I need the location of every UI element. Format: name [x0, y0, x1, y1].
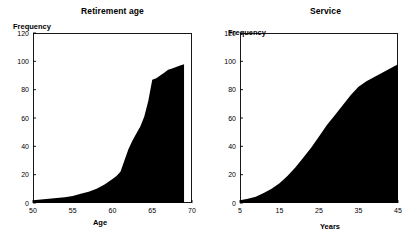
plot-area-service: 020406080100120515253545: [210, 0, 419, 245]
x-axis-tick-label: 45: [394, 207, 402, 214]
x-axis-tick-label: 60: [109, 207, 117, 214]
y-axis-tick-label: 100: [17, 58, 29, 65]
y-axis-tick-label: 20: [21, 171, 29, 178]
y-axis-tick-label: 20: [228, 171, 236, 178]
x-axis-tick-label: 65: [148, 207, 156, 214]
x-axis-tick-label: 5: [238, 207, 242, 214]
y-axis-tick-label: 120: [224, 30, 236, 37]
y-axis-tick-label: 0: [25, 200, 29, 207]
y-axis-tick-label: 120: [17, 30, 29, 37]
y-axis-tick-label: 80: [21, 86, 29, 93]
x-axis-tick-label: 15: [276, 207, 284, 214]
y-axis-tick-label: 60: [21, 115, 29, 122]
cumulative-frequency-area: [33, 64, 184, 203]
y-axis-tick-label: 100: [224, 58, 236, 65]
chart-panel-service: Service Frequency Years 0204060801001205…: [210, 0, 419, 245]
plot-area-retirement-age: 0204060801001205055606570: [0, 0, 209, 245]
ogive-chart-figure: Retirement age Frequency Age 02040608010…: [0, 0, 419, 245]
x-axis-tick-label: 70: [188, 207, 196, 214]
y-axis-tick-label: 40: [228, 143, 236, 150]
x-axis-tick-label: 55: [69, 207, 77, 214]
y-axis-tick-label: 40: [21, 143, 29, 150]
cumulative-frequency-area: [240, 64, 398, 203]
x-axis-tick-label: 25: [315, 207, 323, 214]
chart-panel-retirement-age: Retirement age Frequency Age 02040608010…: [0, 0, 209, 245]
x-axis-tick-label: 50: [29, 207, 37, 214]
y-axis-tick-label: 0: [232, 200, 236, 207]
y-axis-tick-label: 60: [228, 115, 236, 122]
x-axis-tick-label: 35: [355, 207, 363, 214]
y-axis-tick-label: 80: [228, 86, 236, 93]
